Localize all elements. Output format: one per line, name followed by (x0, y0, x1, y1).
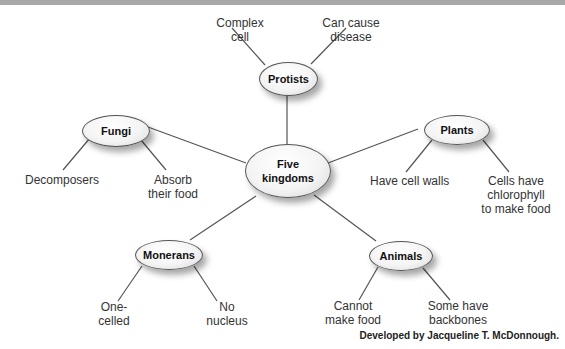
trait-line: Some have (423, 299, 493, 313)
node-animals: Animals (369, 241, 433, 271)
trait-line: backbones (423, 313, 493, 327)
node-fungi: Fungi (82, 115, 150, 147)
trait-line: make food (320, 313, 386, 327)
trait-line: to make food (480, 202, 552, 216)
center-label-line2: kingdoms (262, 171, 314, 185)
node-label: Monerans (143, 248, 195, 262)
trait-line: celled (92, 314, 136, 328)
node-five-kingdoms: Five kingdoms (245, 144, 331, 198)
trait-chlorophyll: Cells have chlorophyll to make food (480, 174, 552, 216)
trait-line: nucleus (202, 314, 252, 328)
node-plants: Plants (424, 115, 490, 145)
node-label: Animals (380, 249, 423, 263)
trait-line: Can cause (318, 16, 384, 30)
node-label: Protists (268, 72, 309, 86)
node-protists: Protists (259, 62, 318, 96)
trait-complex-cell: Complex cell (212, 16, 268, 44)
trait-line: Have cell walls (370, 174, 442, 188)
trait-absorb-their-food: Absorb their food (140, 173, 206, 201)
trait-line: One- (92, 300, 136, 314)
node-label: Fungi (101, 124, 131, 138)
trait-line: cell (212, 30, 268, 44)
trait-have-cell-walls: Have cell walls (370, 174, 442, 188)
trait-line: No (202, 300, 252, 314)
trait-line: Cells have (480, 174, 552, 188)
trait-line: Decomposers (24, 173, 100, 187)
node-monerans: Monerans (135, 240, 203, 270)
trait-line: Complex (212, 16, 268, 30)
trait-some-have-backbones: Some have backbones (423, 299, 493, 327)
trait-no-nucleus: No nucleus (202, 300, 252, 328)
trait-line: Cannot (320, 299, 386, 313)
node-label: Plants (440, 123, 473, 137)
center-label-line1: Five (277, 157, 299, 171)
credit-line: Developed by Jacqueline T. McDonnough. (360, 330, 559, 341)
trait-decomposers: Decomposers (24, 173, 100, 187)
trait-cannot-make-food: Cannot make food (320, 299, 386, 327)
trait-line: Absorb (140, 173, 206, 187)
trait-line: chlorophyll (480, 188, 552, 202)
trait-line: disease (318, 30, 384, 44)
trait-one-celled: One- celled (92, 300, 136, 328)
trait-can-cause-disease: Can cause disease (318, 16, 384, 44)
trait-line: their food (140, 187, 206, 201)
